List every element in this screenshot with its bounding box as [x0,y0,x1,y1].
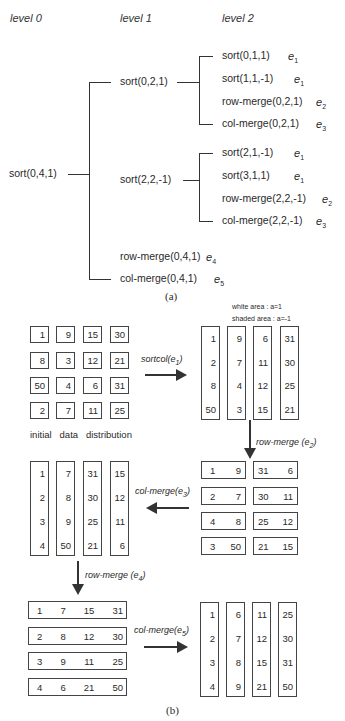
tree-root-node: sort(0,4,1) [9,167,57,179]
grid-cell: 25 [110,402,129,419]
col-merge-e5-label: col-merge(e5) [134,625,189,637]
branch-line [89,279,111,280]
sorted-column: 31302521 [280,326,299,420]
grid-cell: 2 [30,402,49,419]
merged-row: 462150 [28,678,127,696]
arrow-shaft [249,420,251,450]
col-merge-e3-label: col-merge(e3) [135,486,190,498]
level-2-header: level 2 [222,12,254,24]
tree-node-l2: sort(1,1,-1) [222,72,273,84]
level-0-header: level 0 [10,12,42,24]
arrow-shaft [145,374,177,376]
row-pair: 3011 [253,487,298,505]
grid-cell: 50 [30,377,49,394]
grid-cell: 30 [110,326,129,343]
arrow-right-icon [176,369,187,381]
arrow-down-icon [244,448,256,459]
branch-line [177,82,199,83]
merged-column: 78950 [56,461,75,556]
edge-label: e4 [206,251,216,265]
level-1-header: level 1 [120,12,152,24]
merged-row: 171531 [28,601,127,619]
level-2b-trunk [199,153,200,221]
tree-node-l2: sort(3,1,1) [222,169,270,181]
level-1-trunk [89,82,90,279]
note-white-area: white area : a=1 [232,303,282,310]
row-pair: 316 [253,461,298,479]
row-pair: 350 [201,537,246,555]
tree-node-col-merge-0-4-1: col-merge(0,4,1) [120,272,197,284]
edge-label: e3 [316,118,326,132]
merged-row: 281230 [28,627,127,645]
grid-cell: 31 [110,377,129,394]
branch-line [199,221,213,222]
root-connector [68,174,89,175]
grid-cell: 7 [56,402,75,419]
edge-label: e1 [294,170,304,184]
grid-cell: 1 [30,326,49,343]
final-column: 11121521 [252,602,271,697]
row-pair: 27 [201,487,246,505]
row-pair: 2512 [253,512,298,530]
arrow-right-icon [177,641,188,653]
branch-line [199,124,213,125]
final-column: 1234 [200,602,219,697]
tree-node-sort-0-2-1: sort(0,2,1) [120,75,168,87]
final-column: 6789 [226,602,245,697]
branch-line [199,56,213,57]
tree-node-l2: sort(0,1,1) [222,49,270,61]
note-shaded-area: shaded area : a=-1 [232,315,291,322]
arrow-shaft [144,646,179,648]
caption-a: (a) [165,290,177,302]
merged-column: 1234 [30,461,49,556]
arrow-shaft [77,561,79,586]
grid-cell: 12 [83,352,102,369]
grid-cell: 15 [83,326,102,343]
grid-cell: 8 [30,352,49,369]
grid-cell: 9 [56,326,75,343]
tree-node-l2: col-merge(2,2,-1) [222,214,303,226]
grid-cell: 21 [110,352,129,369]
edge-label: e1 [294,147,304,161]
tree-node-l2: col-merge(0,2,1) [222,117,299,129]
edge-label: e1 [294,73,304,87]
tree-node-l2: row-merge(2,2,-1) [222,192,306,204]
sorted-column: 12850 [201,326,220,420]
branch-line [183,180,199,181]
sortcol-label: sortcol(e1) [141,354,182,366]
merged-column: 1512116 [110,461,129,556]
sorted-column: 9743 [227,326,246,420]
grid-cell: 3 [56,352,75,369]
grid-cell: 6 [83,377,102,394]
sorted-column: 6111215 [253,326,272,420]
tree-node-l2: sort(2,1,-1) [222,146,273,158]
final-column: 25303150 [278,602,297,697]
arrow-shaft [156,507,189,509]
tree-node-sort-2-2-m1: sort(2,2,-1) [120,173,171,185]
grid-cell: 11 [83,402,102,419]
row-merge-e2-label: row-merge (e2) [256,437,316,449]
tree-node-row-merge-0-4-1: row-merge(0,4,1) [120,250,201,262]
grid-cell: 4 [56,377,75,394]
tree-node-l2: row-merge(0,2,1) [222,95,303,107]
edge-label: e5 [214,273,224,287]
edge-label: e2 [322,193,332,207]
branch-line [199,153,213,154]
merged-row: 391125 [28,652,127,670]
caption-b: (b) [166,704,179,716]
arrow-down-icon [72,584,84,595]
edge-label: e3 [316,215,326,229]
branch-line [89,82,111,83]
edge-label: e1 [288,50,298,64]
merged-column: 31302521 [83,461,102,556]
row-pair: 19 [201,461,246,479]
level-2a-trunk [199,56,200,124]
row-pair: 48 [201,512,246,530]
row-pair: 2115 [253,537,298,555]
initial-label: initial data distribution [30,429,132,440]
row-merge-e4-label: row-merge (e4) [85,570,145,582]
edge-label: e2 [316,96,326,110]
